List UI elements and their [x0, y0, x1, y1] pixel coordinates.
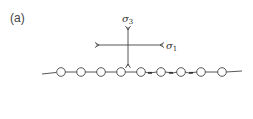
chain-node [218, 68, 227, 77]
chain-node [117, 68, 126, 77]
chain-node [157, 68, 166, 77]
chain-node [137, 68, 146, 77]
sigma1-label: σ1 [166, 40, 177, 53]
chain-node [57, 68, 66, 77]
sigma3-axis [126, 26, 131, 68]
sigma3-label: σ3 [122, 13, 133, 26]
sigma1-axis [95, 43, 164, 48]
panel-label: (a) [10, 11, 25, 25]
chain-node [197, 68, 206, 77]
chain-nodes [57, 68, 227, 77]
chain-node [97, 68, 106, 77]
chain-node [177, 68, 186, 77]
diagram-canvas: σ3 σ1 [0, 0, 253, 119]
diagram-figure: (a) σ3 σ1 [0, 0, 253, 119]
chain-node [77, 68, 86, 77]
